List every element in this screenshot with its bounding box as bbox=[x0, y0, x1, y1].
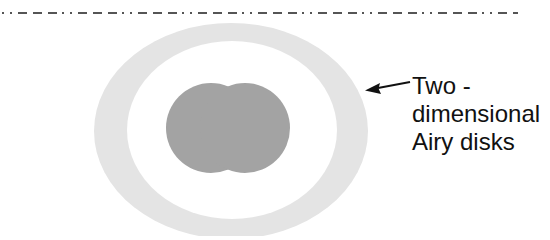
callout-label-line-2: dimensional bbox=[412, 100, 540, 128]
airy-disk-right bbox=[200, 83, 290, 173]
callout-label-line-1: Two - bbox=[412, 72, 540, 100]
overlapping-airy-disks bbox=[166, 83, 290, 173]
callout-arrow-icon bbox=[378, 82, 410, 88]
callout-label-line-3: Airy disks bbox=[412, 128, 540, 156]
callout-label: Two - dimensional Airy disks bbox=[412, 72, 540, 156]
